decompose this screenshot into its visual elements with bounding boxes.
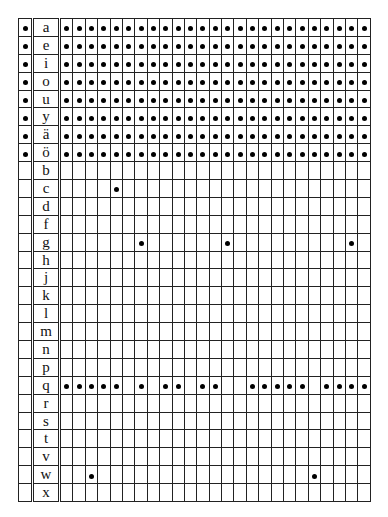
grid-cell: [308, 341, 320, 359]
dot-icon: [64, 62, 69, 67]
dot-icon: [225, 26, 230, 31]
row-label: n: [33, 341, 60, 359]
grid-cell: [234, 287, 246, 305]
grid-cell: [296, 108, 308, 126]
dot-icon: [324, 384, 329, 389]
grid-cell: [110, 448, 122, 466]
row-label: b: [33, 162, 60, 180]
grid-cell: [160, 376, 172, 394]
grid-cell: [197, 144, 209, 162]
grid-cell: [110, 19, 122, 37]
grid-cell: [246, 323, 258, 341]
grid-cell: [110, 72, 122, 90]
grid-cell: [209, 215, 221, 233]
dot-icon: [64, 152, 69, 157]
grid-cell: [259, 287, 271, 305]
dot-icon: [287, 26, 292, 31]
dot-icon: [213, 98, 218, 103]
grid-cell: [222, 54, 234, 72]
dot-icon: [114, 98, 119, 103]
dot-icon: [225, 152, 230, 157]
grid-cell: [345, 197, 357, 215]
grid-cell: [345, 323, 357, 341]
grid-cell: [135, 430, 147, 448]
dot-icon: [89, 116, 94, 121]
dot-icon: [114, 80, 119, 85]
grid-cell: [321, 233, 333, 251]
grid-cell: [197, 180, 209, 198]
grid-cell: [160, 126, 172, 144]
grid-cell: [308, 197, 320, 215]
grid-cell: [246, 90, 258, 108]
grid-cell: [98, 90, 110, 108]
grid-cell: [284, 412, 296, 430]
grid-cell: [160, 233, 172, 251]
grid-cell: [308, 448, 320, 466]
grid-cell: [197, 19, 209, 37]
dot-icon: [213, 384, 218, 389]
grid-cell: [172, 108, 184, 126]
grid-cell: [296, 269, 308, 287]
grid-cell: [321, 376, 333, 394]
grid-cell: [234, 448, 246, 466]
grid-cell: [333, 269, 345, 287]
row-label: a: [33, 19, 60, 37]
grid-cell: [222, 36, 234, 54]
grid-cell: [296, 412, 308, 430]
dot-icon: [163, 116, 168, 121]
grid-cell: [308, 412, 320, 430]
grid-cell: [321, 323, 333, 341]
grid-cell: [147, 287, 159, 305]
dot-icon: [101, 62, 106, 67]
grid-cell: [234, 144, 246, 162]
grid-cell: [122, 466, 134, 484]
grid-cell: [135, 197, 147, 215]
grid-cell: [98, 287, 110, 305]
grid-cell: [122, 269, 134, 287]
grid-cell: [358, 72, 370, 90]
grid-cell: [160, 144, 172, 162]
grid-cell: [110, 430, 122, 448]
grid-cell: [209, 412, 221, 430]
dot-icon: [300, 80, 305, 85]
grid-cell: [197, 448, 209, 466]
grid-cell: [98, 180, 110, 198]
dot-icon: [362, 152, 367, 157]
grid-cell: [197, 484, 209, 502]
grid-cell: [160, 197, 172, 215]
row-label: s: [33, 412, 60, 430]
grid-cell: [135, 144, 147, 162]
grid-cell: [73, 269, 85, 287]
row-marker-cell: [19, 215, 33, 233]
grid-cell: [85, 108, 97, 126]
grid-cell: [222, 323, 234, 341]
grid-cell: [60, 54, 73, 72]
grid-cell: [234, 430, 246, 448]
dot-icon: [300, 384, 305, 389]
grid-cell: [135, 36, 147, 54]
row-label: p: [33, 358, 60, 376]
grid-cell: [296, 430, 308, 448]
grid-cell: [184, 448, 196, 466]
row-label: c: [33, 180, 60, 198]
grid-row: n: [19, 341, 371, 359]
grid-cell: [135, 180, 147, 198]
dot-icon: [312, 62, 317, 67]
grid-cell: [284, 36, 296, 54]
grid-cell: [209, 144, 221, 162]
grid-cell: [209, 126, 221, 144]
grid-cell: [197, 376, 209, 394]
grid-cell: [147, 162, 159, 180]
row-marker-cell: [19, 412, 33, 430]
grid-cell: [60, 126, 73, 144]
dot-icon: [163, 98, 168, 103]
row-marker-cell: [19, 430, 33, 448]
grid-row: f: [19, 215, 371, 233]
grid-cell: [85, 72, 97, 90]
grid-cell: [358, 233, 370, 251]
dot-icon: [250, 116, 255, 121]
grid-cell: [73, 341, 85, 359]
grid-cell: [259, 215, 271, 233]
grid-cell: [135, 19, 147, 37]
grid-cell: [172, 197, 184, 215]
